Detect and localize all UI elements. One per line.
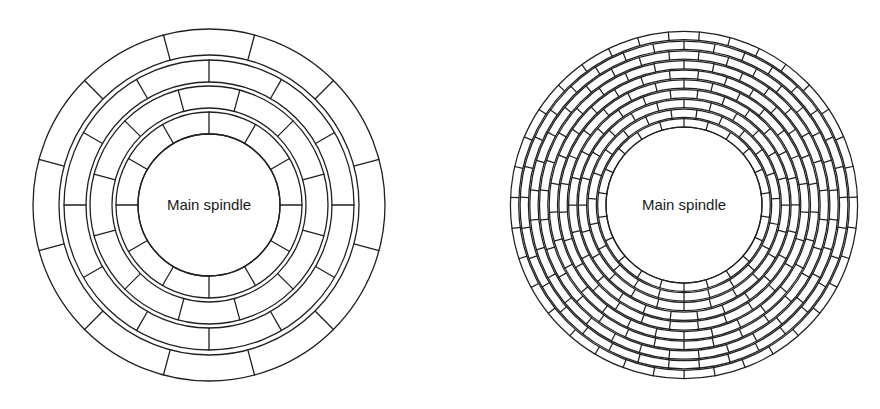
ring-divider (714, 368, 715, 376)
ring-divider (778, 130, 785, 135)
ring-divider (137, 312, 148, 331)
ring-divider (83, 133, 102, 144)
ring-divider (819, 283, 826, 287)
ring-divider (586, 86, 591, 92)
ring-divider (742, 360, 745, 368)
ring-divider (564, 239, 572, 241)
ring-divider (572, 177, 580, 179)
ring-divider (611, 334, 615, 341)
coarse-winding-figure: Main spindle (0, 0, 440, 409)
ring-divider (755, 237, 763, 240)
ring-divider (764, 315, 769, 322)
ring-divider (631, 113, 635, 120)
ring-divider (591, 107, 597, 113)
ring-divider (670, 311, 671, 319)
ring-divider (824, 247, 832, 249)
ring-divider (708, 289, 710, 297)
ring-divider (609, 130, 615, 136)
ring-divider (728, 38, 730, 46)
ring-divider (634, 280, 638, 287)
ring-divider (777, 318, 782, 324)
ring-divider (736, 93, 740, 100)
ring-divider (764, 128, 770, 134)
ring-divider (315, 81, 333, 99)
ring-divider (565, 264, 572, 268)
ring-divider (802, 307, 808, 312)
ring-divider (753, 274, 759, 280)
ring-divider (551, 183, 559, 184)
ring-divider (778, 230, 786, 232)
ring-divider (586, 318, 591, 324)
ring-divider (618, 293, 623, 300)
ring-divider (791, 86, 797, 92)
ring-divider (753, 130, 759, 136)
main-spindle-label-right: Main spindle (642, 196, 726, 213)
fine-winding-svg: Main spindle (440, 0, 880, 409)
ring-divider (753, 334, 757, 341)
ring-divider (583, 327, 588, 334)
ring-divider (539, 109, 546, 114)
ring-divider (619, 256, 625, 261)
ring-divider (778, 178, 786, 180)
ring-divider (660, 122, 662, 130)
ring-divider (762, 245, 769, 249)
ring-divider (94, 230, 115, 236)
ring-divider (814, 247, 822, 250)
ring-divider (637, 271, 641, 278)
ring-divider (625, 329, 628, 337)
ring-divider (529, 256, 537, 259)
ring-divider (726, 57, 728, 65)
ring-divider (722, 97, 725, 105)
ring-divider (599, 193, 607, 194)
ring-divider (699, 32, 700, 40)
ring-divider (698, 71, 699, 79)
ring-divider (698, 350, 699, 358)
ring-divider (577, 296, 583, 302)
ring-divider (592, 152, 599, 156)
ring-divider (829, 190, 837, 191)
ring-divider (836, 137, 844, 140)
ring-divider (548, 308, 554, 313)
ring-divider (604, 109, 609, 115)
ring-divider (163, 266, 174, 285)
ring-divider (769, 285, 775, 291)
ring-divider (668, 32, 669, 40)
ring-divider (841, 256, 849, 259)
ring-divider (819, 190, 827, 191)
ring-divider (559, 273, 566, 277)
ring-divider (803, 85, 809, 91)
ring-divider (748, 265, 754, 271)
diagram-canvas: Main spindle Main spindle (0, 0, 880, 409)
ring-divider (669, 321, 670, 329)
ring-divider (39, 159, 64, 166)
ring-divider (709, 103, 711, 111)
ring-divider (785, 108, 791, 114)
ring-divider (796, 239, 804, 241)
ring-divider (755, 169, 763, 172)
ring-divider (531, 283, 538, 287)
ring-divider (594, 173, 602, 176)
ring-divider (248, 35, 255, 60)
ring-divider (137, 79, 148, 98)
ring-divider (780, 287, 786, 292)
ring-divider (706, 122, 708, 130)
ring-divider (811, 110, 818, 115)
ring-divider (548, 132, 555, 136)
ring-divider (522, 227, 530, 228)
ring-divider (354, 159, 379, 166)
ring-divider (699, 360, 700, 368)
ring-divider (788, 177, 796, 179)
ring-divider (770, 223, 778, 225)
ring-divider (595, 347, 599, 354)
ring-divider (609, 274, 615, 280)
ring-divider (712, 338, 714, 346)
ring-divider (730, 280, 734, 287)
ring-divider (791, 155, 799, 158)
ring-divider (623, 360, 626, 368)
ring-divider (94, 174, 115, 180)
ring-divider (809, 183, 817, 184)
ring-divider (559, 155, 567, 158)
ring-divider (512, 227, 520, 228)
fine-winding-figure: Main spindle (440, 0, 880, 409)
ring-divider (316, 133, 335, 144)
